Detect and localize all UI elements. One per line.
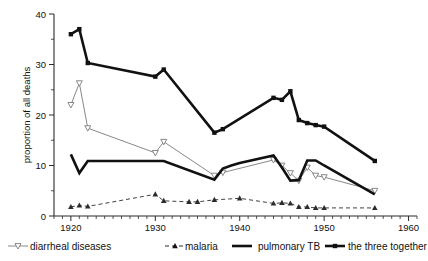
marker-triangle-up (237, 195, 243, 200)
marker-square (271, 96, 275, 100)
legend-item-malaria: malaria (165, 241, 218, 252)
marker-square (288, 89, 292, 93)
marker-triangle-up (279, 200, 285, 205)
legend-label: diarrheal diseases (30, 241, 111, 252)
marker-square (297, 118, 301, 122)
legend-item-the-three-together: the three together (325, 241, 428, 252)
marker-triangle-up (161, 198, 167, 203)
marker-square (86, 61, 90, 65)
legend-label: pulmonary TB (258, 241, 320, 252)
marker-triangle-down-open (68, 103, 74, 108)
legend-label: the three together (348, 241, 428, 252)
marker-square (373, 159, 377, 163)
series-diarrheal-diseases (68, 81, 378, 194)
marker-square (162, 67, 166, 71)
marker-square (305, 121, 309, 125)
y-axis-label: proportion of all deaths (21, 66, 32, 163)
marker-square (313, 123, 317, 127)
y-axis-label-group: proportion of all deaths (21, 66, 32, 163)
series-path (71, 29, 375, 161)
legend-item-pulmonary-tb: pulmonary TB (232, 241, 320, 252)
y-tick-label: 0 (41, 211, 46, 222)
marker-square (322, 124, 326, 128)
series-path (71, 194, 375, 208)
line-chart: proportion of all deaths 010203040192019… (0, 0, 428, 261)
marker-triangle-up (77, 202, 83, 207)
marker-square (77, 27, 81, 31)
marker-square (212, 130, 216, 134)
legend-label: malaria (185, 241, 218, 252)
marker-triangle-down-open (76, 81, 82, 86)
marker-square (333, 244, 337, 248)
series-lines (68, 27, 378, 210)
series-malaria (68, 191, 378, 210)
marker-square (221, 127, 225, 131)
marker-triangle-up (372, 205, 378, 210)
chart-figure: proportion of all deaths 010203040192019… (0, 0, 428, 261)
marker-square (280, 98, 284, 102)
y-tick-label: 30 (35, 59, 46, 70)
chart-legend: diarrheal diseasesmalariapulmonary TBthe… (0, 231, 428, 261)
axes: 01020304019201930194019501960 (35, 9, 419, 234)
y-tick-label: 10 (35, 160, 46, 171)
y-tick-label: 20 (35, 110, 46, 121)
legend-item-diarrheal-diseases: diarrheal diseases (8, 241, 111, 252)
y-tick-label: 40 (35, 9, 46, 20)
marker-triangle-down-open (152, 150, 158, 155)
marker-triangle-up (288, 200, 294, 205)
marker-square (153, 74, 157, 78)
series-the-three-together (69, 27, 377, 163)
marker-triangle-up (153, 191, 159, 196)
marker-square (69, 32, 73, 36)
